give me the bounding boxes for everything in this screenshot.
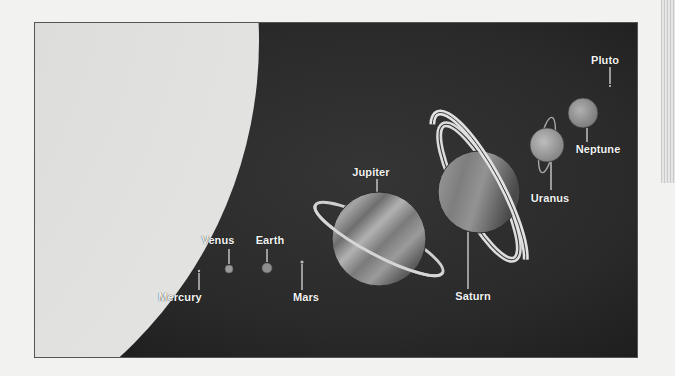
label-earth: Earth (256, 234, 285, 246)
page-edge-stripe (661, 0, 675, 183)
label-venus: Venus (202, 234, 235, 246)
label-pluto: Pluto (591, 54, 619, 66)
label-neptune: Neptune (576, 143, 621, 155)
planet-mercury (198, 270, 200, 272)
planet-pluto (609, 85, 611, 87)
label-jupiter: Jupiter (352, 166, 389, 178)
solar-system-scene (35, 23, 638, 358)
label-uranus: Uranus (531, 192, 570, 204)
label-saturn: Saturn (455, 290, 490, 302)
solar-system-illustration (34, 22, 638, 358)
planet-mars (300, 260, 303, 263)
label-mercury: Mercury (158, 291, 202, 303)
label-mars: Mars (293, 291, 319, 303)
planet-venus (225, 265, 233, 273)
planet-earth (262, 263, 272, 273)
planet-neptune (568, 98, 598, 128)
